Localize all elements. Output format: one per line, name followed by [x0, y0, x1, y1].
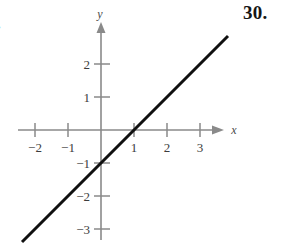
cartesian-plot: −2 −1 1 2 3 2 1 −1 −2 −3 x y	[0, 0, 284, 246]
figure-container: . 30.	[0, 0, 284, 246]
y-tick-label-neg3: −3	[76, 222, 90, 237]
y-tick-label-neg1: −1	[76, 156, 90, 171]
plot-svg: −2 −1 1 2 3 2 1 −1 −2 −3 x y	[0, 0, 284, 246]
y-tick-label-2: 2	[84, 57, 91, 72]
x-tick-label-2: 2	[164, 140, 171, 155]
x-axis-arrowhead	[212, 126, 224, 135]
y-tick-label-1: 1	[84, 90, 91, 105]
x-tick-label-1: 1	[131, 140, 138, 155]
y-axis-arrowhead	[97, 22, 106, 33]
x-tick-label-3: 3	[197, 140, 204, 155]
x-axis-label: x	[230, 123, 237, 137]
y-tick-label-neg2: −2	[76, 189, 90, 204]
y-tick-labels: 2 1 −1 −2 −3	[76, 57, 90, 237]
line-series-y-equals-x-minus-1	[22, 36, 228, 242]
x-tick-label-neg2: −2	[28, 140, 42, 155]
axes-group	[18, 22, 224, 240]
y-axis-label: y	[96, 7, 103, 21]
y-axis-ticks	[94, 64, 110, 229]
x-tick-label-neg1: −1	[61, 140, 75, 155]
